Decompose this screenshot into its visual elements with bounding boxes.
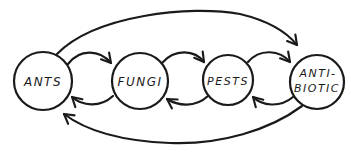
node-pests-label: PESTS xyxy=(207,75,249,88)
node-antibiotic: ANTI- BIOTIC xyxy=(290,55,344,109)
node-antibiotic-label-line1: ANTI- xyxy=(298,67,336,80)
node-pests: PESTS xyxy=(203,55,253,105)
edge-fungi-to-pests xyxy=(162,52,204,63)
diagram-canvas: ANTS FUNGI PESTS ANTI- BIOTIC xyxy=(0,0,351,153)
edge-antibiotic-to-pests xyxy=(253,97,293,105)
node-fungi-label: FUNGI xyxy=(118,75,163,89)
edge-ants-to-antibiotic xyxy=(57,11,297,54)
node-antibiotic-label-line2: BIOTIC xyxy=(294,82,340,95)
edge-pests-to-fungi xyxy=(167,96,208,105)
node-ants: ANTS xyxy=(14,52,72,110)
edge-ants-to-fungi xyxy=(68,53,111,64)
node-ants-label: ANTS xyxy=(23,75,62,89)
edge-antibiotic-to-ants xyxy=(64,106,302,143)
node-fungi: FUNGI xyxy=(112,53,168,109)
edge-pests-to-antibiotic xyxy=(248,52,290,62)
edge-fungi-to-ants xyxy=(72,96,113,104)
